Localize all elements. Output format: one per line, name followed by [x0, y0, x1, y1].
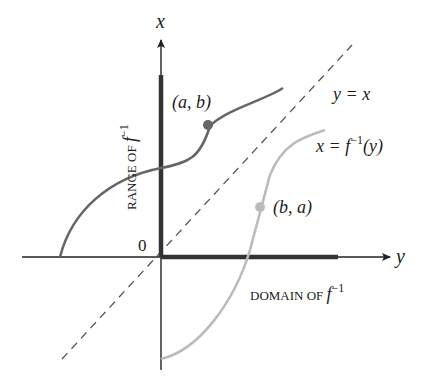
point-ba-marker [255, 202, 265, 212]
vertical-axis-label: x [155, 10, 165, 32]
origin-label: 0 [138, 236, 147, 255]
inverse-function-diagram: x y 0 y = x x = f−1(y) (a, b) (b, a) RAN… [0, 0, 428, 388]
domain-label: DOMAIN OF f−1 [250, 281, 344, 304]
inverse-curve [161, 130, 325, 359]
point-ab-marker [203, 120, 213, 130]
point-ab-label: (a, b) [172, 92, 211, 113]
identity-line-label: y = x [331, 84, 370, 104]
range-label: RANGE OF f−1 [117, 124, 140, 210]
point-ba-label: (b, a) [273, 197, 312, 218]
function-curve [60, 88, 283, 257]
inverse-curve-label: x = f−1(y) [315, 133, 383, 157]
horizontal-axis-label: y [394, 245, 405, 268]
